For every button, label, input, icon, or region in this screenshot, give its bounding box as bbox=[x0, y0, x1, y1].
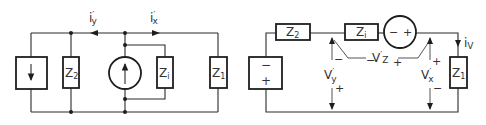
vy-plus: + bbox=[335, 82, 344, 95]
vx-minus: − bbox=[433, 82, 442, 95]
current-iv-label: iV bbox=[464, 36, 474, 51]
vs-box-minus: − bbox=[261, 58, 271, 72]
junction-dot bbox=[123, 43, 127, 47]
current-iy-label: i′y bbox=[89, 10, 97, 26]
junction-dot bbox=[123, 110, 127, 114]
vy-minus: − bbox=[334, 53, 343, 66]
circuit-diagram: Z2 Zi Z1 i′y i′x − + Z2 Zi bbox=[0, 0, 486, 125]
voltage-vz-label: V′Z bbox=[372, 50, 388, 65]
arrow-down-icon bbox=[455, 40, 461, 47]
junction-dot bbox=[69, 31, 73, 35]
vs-circle-minus: − bbox=[389, 26, 398, 39]
vs-circle-plus: + bbox=[403, 26, 412, 39]
left-wire bbox=[266, 33, 276, 57]
right-circuit: − + Z2 Zi − + Z1 iV − V′y + − V′Z + + V′… bbox=[249, 16, 474, 112]
vx-plus: + bbox=[432, 55, 441, 68]
junction-dot bbox=[123, 31, 127, 35]
top-wire-right bbox=[416, 33, 458, 57]
vs-box-plus: + bbox=[261, 74, 271, 88]
arrow-right-icon bbox=[152, 30, 160, 36]
left-circuit: Z2 Zi Z1 i′y i′x bbox=[16, 10, 227, 114]
junction-dot bbox=[123, 97, 127, 101]
vz-plus: + bbox=[393, 56, 402, 69]
junction-dot bbox=[69, 110, 73, 114]
bottom-wire bbox=[266, 88, 458, 112]
current-ix-label: i′x bbox=[150, 10, 158, 26]
arrow-left-icon bbox=[90, 30, 98, 36]
